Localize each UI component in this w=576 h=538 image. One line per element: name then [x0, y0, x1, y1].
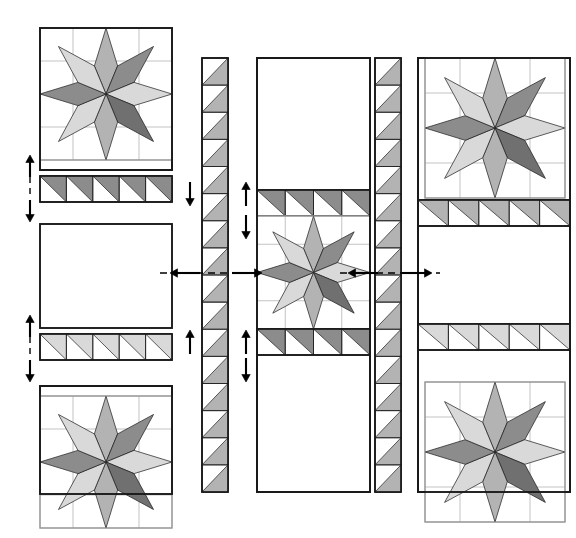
piece-block-right	[418, 58, 570, 522]
right-star-panel-star-top	[425, 58, 565, 198]
piece-sashing-inner-right	[375, 58, 401, 492]
star-block-top-left-star	[40, 28, 172, 160]
sawtooth-sashing-inner-left	[202, 58, 228, 492]
quilt-assembly-diagram	[0, 0, 576, 538]
right-star-panel-sawtooth-lower	[418, 324, 570, 350]
plain-block-left-middle	[40, 224, 172, 328]
star-block-bottom-left-star	[40, 396, 172, 528]
center-star-panel-sawtooth-upper	[257, 190, 370, 216]
right-star-panel-star-bottom	[425, 382, 565, 522]
diagram-canvas	[0, 0, 576, 538]
sawtooth-strip-left-upper	[40, 176, 172, 202]
piece-block-left-middle	[40, 224, 172, 328]
piece-block-top-left	[40, 28, 172, 170]
piece-strip-left-upper	[40, 176, 172, 202]
piece-strip-left-lower	[40, 334, 172, 360]
center-star-panel-sawtooth-lower	[257, 329, 370, 355]
pieces-layer	[40, 28, 570, 528]
sawtooth-strip-left-lower	[40, 334, 172, 360]
piece-block-bottom-left	[40, 386, 172, 528]
piece-sashing-inner-left	[202, 58, 228, 492]
sawtooth-sashing-inner-right	[375, 58, 401, 492]
right-star-panel-sawtooth-upper	[418, 200, 570, 226]
